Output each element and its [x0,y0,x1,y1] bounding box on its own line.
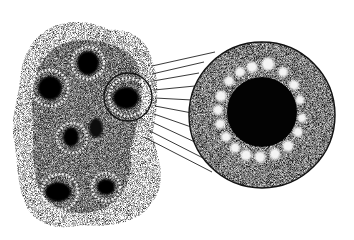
magnified-cell-callout [189,42,335,188]
nucleus [227,77,297,147]
figure-illustration [0,0,354,240]
cell [89,118,103,138]
